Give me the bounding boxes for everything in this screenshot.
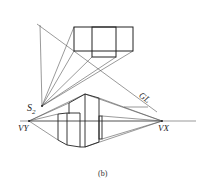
construction-lines [20,24,196,147]
station-point-label: S2 [27,102,36,116]
vanishing-point-vy [28,120,30,122]
station-point-s2 [41,105,43,107]
plan-view [74,27,133,57]
vanishing-left-label: VY [18,123,29,133]
perspective-diagram: S2 GL VY VX (b) [0,0,210,184]
figure-caption: (b) [98,169,108,178]
vanishing-right-label: VX [158,123,169,133]
vanishing-point-vx [161,120,163,122]
perspective-building [58,94,102,147]
ground-line-label: GL [137,90,152,105]
